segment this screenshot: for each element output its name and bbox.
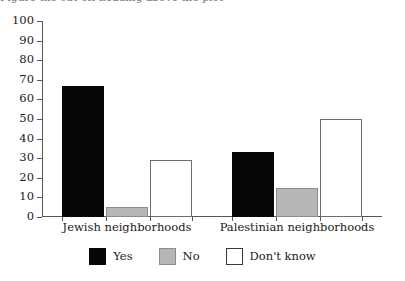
y-tick-label: 100 [12, 15, 34, 27]
legend-item-yes[interactable]: Yes [89, 248, 132, 265]
y-tick-label: 60 [19, 94, 34, 106]
black-swatch [89, 248, 106, 265]
y-axis-line [42, 21, 43, 217]
y-tick-mark [37, 119, 42, 120]
white-swatch [226, 248, 243, 265]
bar-jewish-yes [62, 86, 104, 217]
y-tick-mark [37, 80, 42, 81]
gray-swatch [159, 248, 176, 265]
bar-palestinian-no [276, 188, 318, 217]
y-tick-mark [37, 158, 42, 159]
legend-item-no[interactable]: No [159, 248, 200, 265]
y-tick-label: 40 [19, 133, 34, 145]
x-tick-mark [192, 217, 193, 221]
y-tick-mark [37, 99, 42, 100]
category-label-jewish: Jewish neighborhoods [63, 222, 192, 234]
plot-area: 1009080706050403020100 [42, 21, 382, 217]
y-tick-label: 0 [27, 211, 34, 223]
bar-chart: Figure the cut-off heading above the plo… [0, 0, 405, 281]
y-tick-mark [37, 21, 42, 22]
y-tick-mark [37, 217, 42, 218]
y-tick-label: 10 [19, 192, 34, 204]
y-tick-mark [37, 60, 42, 61]
legend-item-don-t-know[interactable]: Don't know [226, 248, 316, 265]
y-tick-mark [37, 178, 42, 179]
y-tick-label: 80 [19, 54, 34, 66]
category-label-palestinian: Palestinian neighborhoods [220, 222, 375, 234]
legend-label: Yes [113, 251, 132, 263]
chart-legend: YesNoDon't know [0, 248, 405, 265]
y-tick-mark [37, 197, 42, 198]
bar-jewish-don-t-know [150, 160, 192, 217]
y-tick-label: 90 [19, 35, 34, 47]
bar-palestinian-don-t-know [320, 119, 362, 217]
y-tick-label: 20 [19, 172, 34, 184]
y-tick-label: 70 [19, 74, 34, 86]
y-tick-mark [37, 41, 42, 42]
y-tick-label: 30 [19, 152, 34, 164]
y-tick-mark [37, 139, 42, 140]
cutoff-title-remnant: Figure the cut-off heading above the plo… [0, 0, 405, 3]
bar-palestinian-yes [232, 152, 274, 217]
legend-label: No [183, 251, 200, 263]
legend-label: Don't know [250, 251, 316, 263]
bar-jewish-no [106, 207, 148, 217]
y-tick-label: 50 [19, 113, 34, 125]
